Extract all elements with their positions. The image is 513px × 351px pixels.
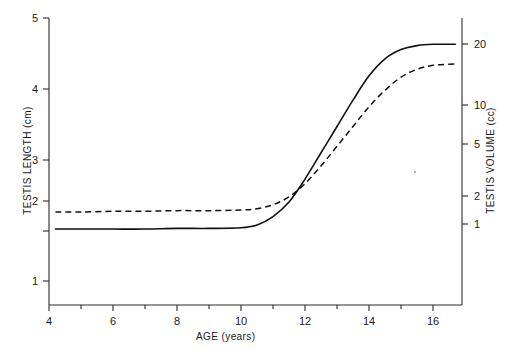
series-line-testis-volume	[55, 64, 455, 212]
x-tick-label: 8	[174, 315, 180, 327]
print-speck-artifact	[414, 171, 416, 173]
x-axis-major-ticks	[49, 305, 433, 311]
y-tick-label-right: 10	[474, 99, 486, 111]
plot-area: 5 4 3 2 1 20 10 5 2 1	[0, 0, 513, 351]
x-tick-label: 14	[363, 315, 375, 327]
y-axis-left-ticks	[43, 18, 49, 281]
y-tick-label-right: 5	[474, 138, 480, 150]
y-tick-label-right: 1	[474, 218, 480, 230]
x-tick-label: 12	[299, 315, 311, 327]
y-tick-label-left: 5	[32, 12, 38, 24]
y-tick-label-left: 1	[32, 275, 38, 287]
x-tick-label: 4	[46, 315, 52, 327]
y-axis-right-ticks	[462, 44, 468, 224]
chart-figure: TESTIS LENGTH (cm) TESTIS VOLUME (cc) AG…	[0, 0, 513, 351]
y-tick-label-left: 2	[32, 195, 38, 207]
x-tick-label: 6	[110, 315, 116, 327]
y-axis-left-tick-labels: 5 4 3 2 1	[32, 12, 38, 287]
x-tick-label: 10	[235, 315, 247, 327]
x-axis-tick-labels: 4 6 8 10 12 14 16	[46, 315, 439, 327]
y-tick-label-left: 3	[32, 154, 38, 166]
y-tick-label-left: 4	[32, 83, 38, 95]
y-axis-right-tick-labels: 20 10 5 2 1	[474, 38, 486, 230]
y-tick-label-right: 20	[474, 38, 486, 50]
y-tick-label-right: 2	[474, 190, 480, 202]
series-line-testis-length	[55, 44, 455, 229]
x-tick-label: 16	[427, 315, 439, 327]
